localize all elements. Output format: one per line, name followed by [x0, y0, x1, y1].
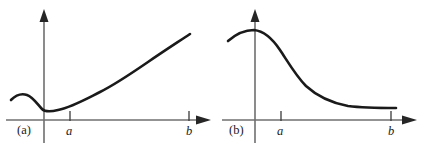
- panel-label-b: (b): [229, 124, 244, 137]
- y-axis-arrowhead-icon: [251, 9, 260, 22]
- panel-b: (b) a b: [218, 0, 435, 148]
- tick-label-a: a: [277, 125, 283, 138]
- function-curve: [11, 34, 190, 111]
- tick-label-a: a: [66, 125, 72, 138]
- figure-container: (a) a b (b) a b: [0, 0, 435, 148]
- panel-a: (a) a b: [0, 0, 218, 148]
- tick-label-b: b: [186, 125, 192, 138]
- y-axis-arrowhead-icon: [40, 9, 49, 22]
- panel-label-a: (a): [17, 124, 31, 137]
- function-curve: [228, 30, 396, 108]
- x-axis-arrowhead-icon: [402, 116, 417, 125]
- tick-label-b: b: [388, 125, 394, 138]
- x-axis-arrowhead-icon: [196, 116, 211, 125]
- panel-b-plot: [218, 0, 435, 148]
